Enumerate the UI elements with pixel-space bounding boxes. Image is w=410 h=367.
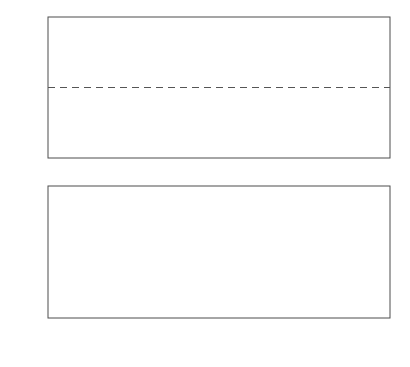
figure-container [0,0,410,367]
bottom-panel [0,0,390,318]
plot-svg [0,0,410,367]
top-panel [48,17,390,158]
bottom-panel-frame [48,186,390,318]
